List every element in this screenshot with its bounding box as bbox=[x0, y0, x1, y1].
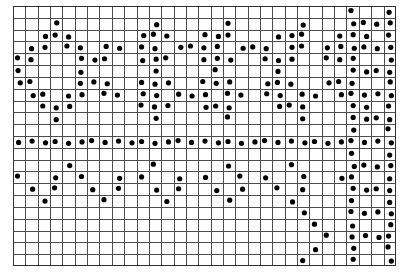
dot-matrix-canvas bbox=[13, 6, 396, 266]
figure-container bbox=[0, 0, 408, 278]
dot-matrix-grid bbox=[13, 6, 396, 266]
